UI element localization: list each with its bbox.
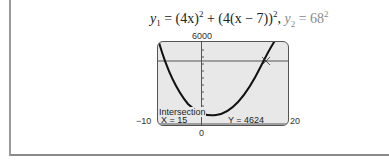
y2-expr: = 68 [295,11,324,26]
ymax-label: 6000 [192,31,212,41]
y1-curve [158,42,276,115]
y2-sup: 2 [324,9,329,19]
equation-caption: y1 = (4x)2 + (4(x − 7))2, y2 = 682 [150,9,329,28]
y1-expr-a: = (4x) [161,11,199,26]
y-readout: Y = 4624 [228,115,264,125]
origin-label: 0 [199,128,204,138]
calculator-screen: Intersection X = 15 Y = 4624 [157,41,289,126]
y1-expr-b: + (4(x − 7)) [203,11,272,26]
xmax-label: 20 [290,116,300,126]
x-readout: X = 15 [161,115,187,125]
y2-equation: y2 = 682 [284,11,328,26]
xmin-label: −10 [136,116,151,126]
